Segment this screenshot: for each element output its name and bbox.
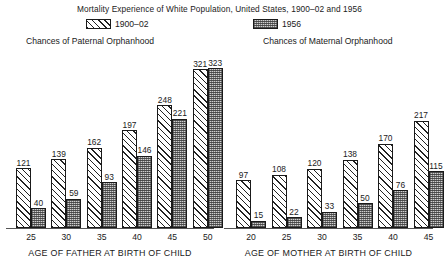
bar[interactable] <box>137 156 152 228</box>
bar[interactable] <box>16 168 31 228</box>
bar[interactable] <box>378 144 393 228</box>
x-tick-label: 40 <box>122 232 152 242</box>
bar[interactable] <box>193 69 208 228</box>
bar[interactable] <box>393 190 408 228</box>
legend-item-1956: 1956 <box>253 19 301 29</box>
bar[interactable] <box>287 217 302 228</box>
legend-swatch-hatch-icon <box>86 19 111 29</box>
bar-value-label: 221 <box>173 109 187 117</box>
bar-value-label: 162 <box>87 138 101 146</box>
panel-heading-maternal: Chances of Maternal Orphanhood <box>263 36 392 46</box>
bar[interactable] <box>172 119 187 228</box>
x-axis-line-paternal <box>6 228 214 229</box>
bar-column: 321 <box>193 52 208 228</box>
bar-column: 33 <box>322 52 337 228</box>
bar-column: 97 <box>236 52 251 228</box>
bar[interactable] <box>307 169 322 228</box>
x-tick-label: 35 <box>343 232 373 242</box>
bar-column: 217 <box>414 52 429 228</box>
bar-value-label: 146 <box>138 146 152 154</box>
bar-column: 121 <box>16 52 31 228</box>
bar-value-label: 33 <box>325 202 334 210</box>
x-tick-label: 25 <box>272 232 302 242</box>
bar-column: 248 <box>157 52 172 228</box>
bar-value-label: 15 <box>254 211 263 219</box>
x-tick-label: 45 <box>157 232 187 242</box>
bar-column: 93 <box>102 52 117 228</box>
x-tick-label: 50 <box>193 232 223 242</box>
x-tick-label: 30 <box>51 232 81 242</box>
bar-value-label: 139 <box>52 150 66 158</box>
bar-value-label: 121 <box>17 159 31 167</box>
bar-value-label: 120 <box>308 159 322 167</box>
x-tick-label: 20 <box>236 232 266 242</box>
bar-value-label: 59 <box>69 189 78 197</box>
chart-panel-maternal: 971510822120331385017076217115 AGE OF MO… <box>222 52 435 268</box>
bar[interactable] <box>343 160 358 228</box>
legend-item-1900-02: 1900–02 <box>86 19 148 29</box>
bar[interactable] <box>358 203 373 228</box>
bar-column: 115 <box>429 52 444 228</box>
bar[interactable] <box>429 171 444 228</box>
bar-column: 108 <box>272 52 287 228</box>
x-tick-label: 30 <box>307 232 337 242</box>
x-axis-title-maternal: AGE OF MOTHER AT BIRTH OF CHILD <box>222 248 435 258</box>
x-tick-label: 35 <box>87 232 117 242</box>
bar-value-label: 170 <box>379 134 393 142</box>
bar-column: 139 <box>51 52 66 228</box>
bar[interactable] <box>157 105 172 228</box>
bar-column: 50 <box>358 52 373 228</box>
bar[interactable] <box>87 148 102 228</box>
bar-value-label: 115 <box>429 162 442 170</box>
bar[interactable] <box>102 182 117 228</box>
bar[interactable] <box>122 130 137 228</box>
bar-column: 221 <box>172 52 187 228</box>
bar-column: 76 <box>393 52 408 228</box>
bar-value-label: 40 <box>34 199 43 207</box>
bar-column: 120 <box>307 52 322 228</box>
legend-label-1900-02: 1900–02 <box>115 20 148 29</box>
chart-panel-paternal: 121401395916293197146248221321323 AGE OF… <box>4 52 216 268</box>
bar-column: 15 <box>251 52 266 228</box>
bar-column: 138 <box>343 52 358 228</box>
x-axis-title-paternal: AGE OF FATHER AT BIRTH OF CHILD <box>4 248 216 258</box>
bar-column: 323 <box>208 52 223 228</box>
bar-column: 22 <box>287 52 302 228</box>
bar[interactable] <box>31 208 46 228</box>
bar[interactable] <box>272 175 287 228</box>
bar[interactable] <box>51 159 66 228</box>
bar-value-label: 93 <box>104 173 113 181</box>
bar-value-label: 217 <box>414 111 428 119</box>
bar-column: 146 <box>137 52 152 228</box>
bar[interactable] <box>66 199 81 228</box>
legend-label-1956: 1956 <box>282 20 301 29</box>
bar-value-label: 323 <box>208 59 222 67</box>
x-axis-line-maternal <box>224 228 433 229</box>
legend-swatch-stipple-icon <box>253 19 278 29</box>
panel-heading-paternal: Chances of Paternal Orphanhood <box>26 36 154 46</box>
bar[interactable] <box>322 212 337 228</box>
bar-value-label: 76 <box>396 181 405 189</box>
bar-column: 197 <box>122 52 137 228</box>
bar-value-label: 108 <box>272 165 286 173</box>
bar-value-label: 50 <box>360 194 369 202</box>
bar-column: 40 <box>31 52 46 228</box>
bar-value-label: 97 <box>239 171 248 179</box>
bar[interactable] <box>251 221 266 228</box>
x-tick-label: 45 <box>414 232 444 242</box>
plot-area-maternal: 971510822120331385017076217115 <box>222 52 435 228</box>
x-tick-label: 25 <box>16 232 46 242</box>
bar-value-label: 321 <box>193 60 207 68</box>
plot-area-paternal: 121401395916293197146248221321323 <box>4 52 216 228</box>
bar-value-label: 22 <box>289 208 298 216</box>
chart-title: Mortality Experience of White Population… <box>0 4 439 14</box>
bar[interactable] <box>236 180 251 228</box>
bar-value-label: 248 <box>158 96 172 104</box>
x-tick-label: 40 <box>378 232 408 242</box>
bar-column: 59 <box>66 52 81 228</box>
bar-column: 162 <box>87 52 102 228</box>
bar-value-label: 138 <box>343 150 357 158</box>
bar-value-label: 197 <box>123 121 137 129</box>
bar[interactable] <box>414 121 429 228</box>
bar[interactable] <box>208 68 223 228</box>
